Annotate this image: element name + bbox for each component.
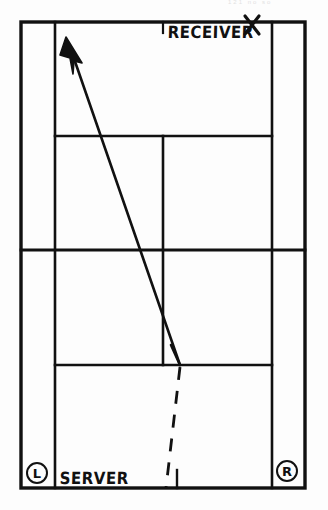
right-position-marker: R [276,460,298,482]
court-drawing [0,0,328,510]
return-path-kink [171,345,180,365]
tennis-court-diagram: 121 no so [0,0,328,510]
left-position-marker: L [26,462,48,484]
server-label: SERVER [59,468,129,488]
court-lines [21,22,305,488]
receiver-label: RECEIVER [167,22,254,42]
